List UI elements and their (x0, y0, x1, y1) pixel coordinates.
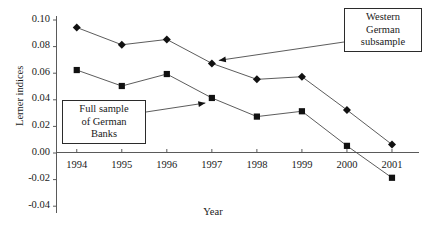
data-point-marker-diamond (298, 73, 306, 81)
data-point-marker-diamond (253, 75, 261, 83)
x-tick-label: 1997 (187, 159, 237, 170)
x-tick-label: 2001 (367, 159, 417, 170)
annotation-full-sample-line3: Banks (91, 128, 117, 141)
data-point-marker-square (209, 95, 215, 101)
arrowhead (219, 57, 226, 63)
data-point-marker-diamond (163, 35, 171, 43)
y-tick-label: 0.02 (2, 119, 50, 130)
data-point-marker-diamond (73, 23, 81, 31)
data-point-marker-square (389, 175, 395, 181)
y-tick-label: 0.10 (2, 13, 50, 24)
leader-line-western-subsample (219, 42, 344, 62)
y-tick-label: 0.08 (2, 39, 50, 50)
annotation-western-subsample: Western German subsample (344, 8, 422, 52)
data-point-marker-diamond (343, 106, 351, 114)
annotation-full-sample-line1: Full sample (79, 103, 128, 116)
data-point-marker-square (299, 108, 305, 114)
y-tick-label: 0.04 (2, 92, 50, 103)
x-tick-label: 1996 (142, 159, 192, 170)
data-point-marker-diamond (388, 141, 396, 149)
x-tick-label: 1995 (97, 159, 147, 170)
x-tick-label: 1999 (277, 159, 327, 170)
data-point-marker-square (74, 67, 80, 73)
lerner-indices-chart: 0.100.080.060.040.020.00-0.02-0.04 19941… (0, 0, 426, 235)
annotation-full-sample: Full sample of German Banks (62, 100, 146, 144)
x-axis-title: Year (0, 206, 426, 217)
arrowhead (198, 101, 205, 107)
data-point-marker-square (254, 113, 260, 119)
x-tick-label: 1994 (52, 159, 102, 170)
data-point-marker-diamond (208, 59, 216, 67)
annotation-full-sample-line2: of German (81, 116, 126, 129)
y-axis-title: Lerner indices (14, 66, 25, 126)
x-tick-label: 1998 (232, 159, 282, 170)
data-point-marker-square (164, 71, 170, 77)
data-point-marker-diamond (118, 41, 126, 49)
leader-line-full-sample (146, 101, 205, 112)
data-point-marker-square (119, 83, 125, 89)
y-tick-label: 0.06 (2, 66, 50, 77)
x-tick-label: 2000 (322, 159, 372, 170)
y-tick-label: -0.02 (2, 172, 50, 183)
annotation-leader-lines (146, 42, 344, 112)
annotation-western-subsample-line1: Western (366, 11, 400, 24)
y-tick-label: 0.00 (2, 146, 50, 157)
annotation-western-subsample-line2: German (366, 24, 400, 37)
x-axis-ticks (77, 149, 392, 153)
y-axis-ticks (53, 20, 57, 206)
data-point-marker-square (344, 143, 350, 149)
annotation-western-subsample-line3: subsample (361, 36, 405, 49)
